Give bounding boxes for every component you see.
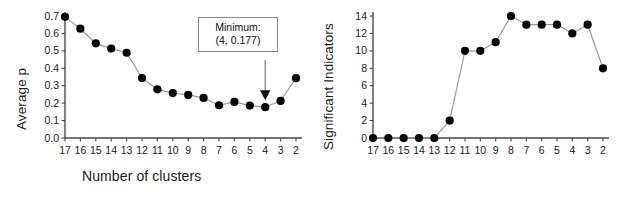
y-axis-tick-label: 10 [355, 44, 367, 56]
y-axis-tick-label: 2 [361, 114, 367, 126]
x-axis-tick-label: 7 [216, 144, 222, 156]
x-axis-tick-label: 3 [278, 144, 284, 156]
x-axis-tick-label: 16 [382, 144, 394, 156]
data-point-marker [153, 85, 161, 93]
x-axis-tick-label: 10 [474, 144, 486, 156]
y-axis-tick-label: 0.1 [44, 114, 59, 126]
y-axis-tick-label: 0.7 [44, 10, 59, 22]
x-axis-tick-label: 8 [201, 144, 207, 156]
y-axis-tick-label: 0.2 [44, 97, 59, 109]
y-axis-tick-label: 0.3 [44, 79, 59, 91]
data-point-marker [261, 103, 269, 111]
data-point-marker [415, 134, 423, 142]
x-axis-tick-label: 15 [398, 144, 410, 156]
data-point-marker [123, 49, 131, 57]
data-point-marker [292, 74, 300, 82]
y-axis-tick-label: 0.0 [44, 132, 59, 144]
x-axis-tick-label: 9 [493, 144, 499, 156]
y-axis-tick-label: 8 [361, 62, 367, 74]
x-axis-tick-label: 16 [75, 144, 87, 156]
x-axis-tick-label: 3 [585, 144, 591, 156]
data-point-marker [169, 89, 177, 97]
x-axis-tick-label: 2 [293, 144, 299, 156]
x-axis-tick-label: 5 [247, 144, 253, 156]
x-axis-tick-label: 5 [554, 144, 560, 156]
y-axis-tick-label: 0.5 [44, 44, 59, 56]
data-point-marker [246, 101, 254, 109]
data-point-marker [400, 134, 408, 142]
y-axis-tick-label: 6 [361, 79, 367, 91]
annotation-arrow [260, 60, 270, 100]
x-axis-tick-label: 4 [569, 144, 575, 156]
y-axis-title-left: Average p [14, 68, 29, 130]
data-point-marker [492, 38, 500, 46]
y-axis-tick-label: 0 [361, 132, 367, 144]
y-axis-tick-label: 14 [355, 10, 367, 22]
data-point-marker [184, 91, 192, 99]
chart-panel-average-p: 0.00.10.20.30.40.50.60.71716151413121110… [0, 0, 308, 197]
data-point-marker [538, 21, 546, 29]
data-point-marker [522, 21, 530, 29]
data-point-marker [61, 13, 69, 21]
x-axis-tick-label: 11 [152, 144, 163, 156]
data-point-marker [553, 21, 561, 29]
x-axis-tick-label: 12 [444, 144, 456, 156]
data-point-marker [277, 97, 285, 105]
data-point-marker [138, 74, 146, 82]
x-axis-tick-label: 4 [262, 144, 268, 156]
x-axis-tick-label: 10 [167, 144, 179, 156]
x-axis-tick-label: 12 [136, 144, 148, 156]
minimum-annotation-box: Minimum: (4, 0.177) [198, 17, 278, 52]
data-point-marker [230, 98, 238, 106]
x-axis-tick-label: 15 [90, 144, 102, 156]
data-point-marker [92, 39, 100, 47]
data-point-marker [507, 12, 515, 20]
y-axis-title-right: Significant Indicators [321, 23, 336, 150]
data-point-marker [215, 101, 223, 109]
annotation-line-2: (4, 0.177) [203, 34, 273, 47]
x-axis-title-left: Number of clusters [82, 168, 201, 184]
figure-container: 0.00.10.20.30.40.50.60.71716151413121110… [0, 0, 617, 197]
y-axis-tick-label: 4 [361, 97, 367, 109]
data-point-marker [446, 116, 454, 124]
x-axis-tick-label: 11 [460, 144, 471, 156]
x-axis-tick-label: 6 [539, 144, 545, 156]
x-axis-tick-label: 13 [121, 144, 133, 156]
y-axis-tick-label: 0.6 [44, 27, 59, 39]
data-point-marker [200, 94, 208, 102]
data-point-marker [369, 134, 377, 142]
data-point-marker [384, 134, 392, 142]
x-axis-tick-label: 17 [367, 144, 379, 156]
x-axis-tick-label: 7 [523, 144, 529, 156]
data-point-marker [430, 134, 438, 142]
data-point-marker [584, 21, 592, 29]
chart-panel-significant-indicators: 02468101214171615141312111098765432 Sign… [309, 0, 617, 197]
x-axis-tick-label: 6 [231, 144, 237, 156]
y-axis-tick-label: 12 [355, 27, 367, 39]
x-axis-tick-label: 14 [413, 144, 425, 156]
data-point-marker [476, 47, 484, 55]
y-axis-tick-label: 0.4 [44, 62, 59, 74]
data-point-marker [461, 47, 469, 55]
x-axis-tick-label: 14 [105, 144, 117, 156]
x-axis-tick-label: 9 [185, 144, 191, 156]
x-axis-tick-label: 13 [428, 144, 440, 156]
data-point-marker [568, 29, 576, 37]
data-point-marker [599, 64, 607, 72]
annotation-arrowhead [260, 90, 270, 100]
data-point-marker [76, 25, 84, 33]
annotation-line-1: Minimum: [203, 21, 273, 34]
significant-indicators-line-chart: 02468101214171615141312111098765432 [309, 0, 617, 197]
x-axis-tick-label: 17 [59, 144, 71, 156]
data-point-marker [107, 44, 115, 52]
x-axis-tick-label: 8 [508, 144, 514, 156]
x-axis-tick-label: 2 [600, 144, 606, 156]
